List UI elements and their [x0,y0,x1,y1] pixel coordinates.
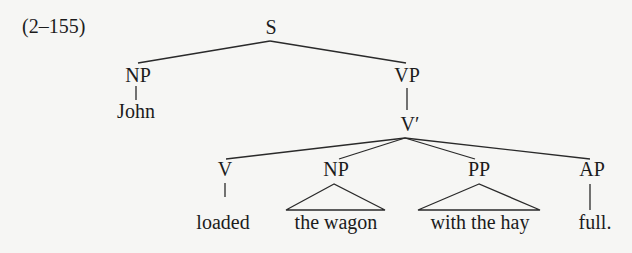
edge-vbar-pp [405,138,475,159]
leaf-full: full. [579,211,612,233]
node-vp: VP [394,64,420,86]
edge-vbar-v [226,138,405,159]
node-v: V [218,158,233,180]
triangle-pp [418,184,540,210]
leaf-the-wagon: the wagon [295,211,378,234]
edge-vbar-ap [405,138,590,159]
node-np-object: NP [323,158,349,180]
leaf-john: John [117,100,155,122]
syntax-tree-diagram: (2–155) S NP John VP V′ V NP PP AP loade… [0,0,632,253]
node-np-subject: NP [125,64,151,86]
triangle-np-object [286,184,385,210]
edge-s-np [138,41,270,63]
edge-vbar-np [339,138,405,159]
example-number: (2–155) [22,15,85,38]
leaf-loaded: loaded [196,211,249,233]
node-pp: PP [468,158,490,180]
edge-s-vp [270,41,406,63]
node-ap: AP [579,158,605,180]
node-s: S [265,16,276,38]
leaf-with-the-hay: with the hay [431,211,530,234]
node-v-bar: V′ [401,113,420,135]
